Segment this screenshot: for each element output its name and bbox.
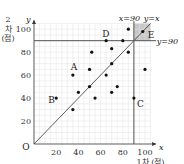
data-point (93, 96, 96, 99)
data-point (71, 108, 74, 111)
data-point (127, 51, 130, 54)
origin-label: O (22, 142, 29, 152)
y-axis-label-line: 2 (5, 15, 10, 24)
x-tick-label: 60 (96, 148, 106, 157)
x-tick-label: 20 (51, 148, 61, 157)
y-tick-label: 40 (21, 94, 31, 103)
point-label-d: D (102, 29, 109, 39)
y-equals-x-label: y=x (143, 14, 160, 23)
data-point (141, 30, 144, 33)
data-point (71, 74, 74, 77)
y-axis-symbol: y (25, 15, 31, 24)
data-point (132, 96, 135, 99)
data-point (110, 62, 113, 65)
point-label-b: B (48, 95, 55, 105)
data-point (105, 39, 108, 42)
x-tick-label: 40 (73, 148, 83, 157)
y-axis-arrow-icon (32, 20, 36, 24)
y-axis-label-line: 차 (5, 25, 13, 34)
scatter-chart: 2040608010020406080100Oxy1차 (점)2차(점)x=90… (0, 0, 184, 164)
x-axis-symbol: x (159, 143, 164, 152)
y-equals-x-line (34, 23, 151, 144)
y-axis-label-line: (점) (1, 33, 14, 43)
y-tick-label: 80 (21, 48, 31, 57)
y-tick-label: 60 (21, 71, 31, 80)
data-point (121, 39, 124, 42)
y-tick-label: 100 (16, 25, 31, 34)
x-axis-label: 1차 (점) (137, 157, 165, 164)
point-label-e: E (148, 30, 155, 40)
data-point (90, 51, 93, 54)
data-point (116, 85, 119, 88)
data-point (105, 74, 108, 77)
x-tick-label: 80 (118, 148, 128, 157)
x-axis-arrow-icon (152, 142, 156, 146)
data-point (127, 28, 130, 31)
data-point (143, 68, 146, 71)
data-point (110, 91, 113, 94)
y-equals-90-label: y=90 (156, 37, 178, 46)
data-point (88, 68, 91, 71)
y-tick-label: 20 (21, 117, 31, 126)
x-equals-90-label: x=90 (119, 14, 140, 23)
point-label-c: C (137, 99, 144, 109)
point-label-a: A (70, 62, 78, 72)
data-point (77, 91, 80, 94)
data-point (55, 96, 58, 99)
data-point (88, 85, 91, 88)
data-point (110, 47, 113, 50)
x-tick-label: 100 (137, 148, 152, 157)
